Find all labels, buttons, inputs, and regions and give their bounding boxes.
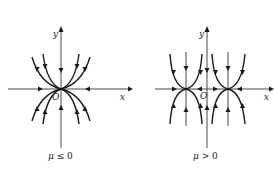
left-caption: μ ≤ 0	[48, 152, 73, 161]
x-axis-label: x	[264, 93, 269, 102]
right-caption: μ > 0	[193, 152, 218, 161]
left-panel	[8, 26, 133, 148]
origin-label: O	[200, 92, 207, 101]
y-axis-arrow-icon	[59, 26, 64, 32]
phase-portraits	[0, 0, 274, 172]
origin-label: O	[52, 93, 59, 102]
condition-text: > 0	[199, 151, 218, 161]
y-axis-label: y	[199, 30, 204, 39]
y-axis-label: y	[53, 30, 58, 39]
condition-text: ≤ 0	[54, 151, 73, 161]
x-axis-arrow-icon	[128, 87, 133, 92]
right-panel	[155, 26, 274, 148]
x-axis-arrow-icon	[269, 87, 274, 92]
y-axis-arrow-icon	[205, 26, 210, 32]
x-axis-label: x	[120, 93, 125, 102]
